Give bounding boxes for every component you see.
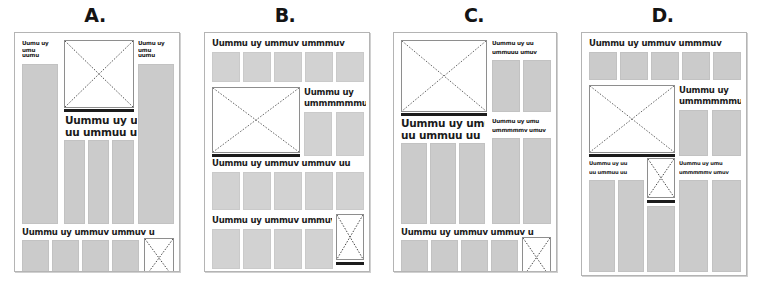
column-heading-right-line2: ummmmmv umuv [679,169,741,175]
sub-headline-line2: ummmmmmu [679,97,741,106]
text-block [679,180,708,272]
image-placeholder [589,85,675,153]
text-block [401,143,427,224]
panel-label-a: A. [0,2,190,28]
text-block [112,140,134,224]
text-block [305,229,333,269]
text-block [212,172,240,210]
text-block [243,229,271,269]
text-block [589,180,615,272]
headline-middle: Uummu uy ummuv ummuv uu [212,159,364,168]
text-block [274,172,302,210]
headline: Uummu uy umu [65,115,137,126]
image-placeholder [212,87,300,153]
text-block [712,110,741,156]
text-block [212,229,240,269]
column-heading-2-line2: ummmmmv umuv [492,127,552,134]
text-block [274,229,302,269]
image-placeholder [401,40,487,112]
text-block [492,60,520,112]
text-block [138,64,174,224]
sub-headline: Uummu uy [304,88,366,97]
text-block [523,60,551,112]
panel-label-c: C. [380,2,568,28]
text-block [336,172,364,210]
panel-label-d: D. [568,2,757,28]
column-heading-line2: ummuuu umuv [492,49,552,56]
layout-b: B. Uummu uy ummuv ummmuv Uummu [190,0,380,286]
caption-rule [212,154,300,157]
column-heading-right: Uummu uy umu [679,160,741,166]
column-heading: Uummu uy uu [492,40,552,47]
text-block [64,140,85,224]
headline-bottom: Uummu uy ummuv ummuv u [212,216,332,225]
text-block [304,112,332,156]
text-block [52,240,79,272]
text-block [459,143,485,224]
text-block [430,143,456,224]
page-b: Uummu uy ummuv ummmuv Uummu uy ummmmmmu [204,32,370,272]
text-block [88,140,109,224]
text-block [82,240,109,272]
headline-line2: uu ummuu uu [401,130,485,141]
layout-a: A. Uumu uy umu uumu Uumu uy umu uumu [0,0,190,286]
image-placeholder-small [522,237,551,272]
headline-top: Uummu uy ummuv ummmuv [212,39,364,48]
column-heading-left-line2: uu ummuu uu [589,169,647,175]
text-block [647,206,675,272]
text-block [22,240,49,272]
caption-rule [401,113,487,116]
caption-rule [647,200,675,203]
layout-d: D. Uummu uy ummuv ummmuv Uummu [568,0,757,286]
text-block [492,138,520,224]
text-block [491,240,518,272]
text-block [243,52,271,82]
image-placeholder-small [336,214,364,260]
text-block [401,240,428,272]
text-block [712,180,741,272]
image-placeholder-small [647,158,675,198]
image-placeholder-small [144,238,174,272]
headline-top: Uummu uy ummuv ummmuv [589,39,741,48]
text-block [682,52,710,80]
image-placeholder [64,40,134,108]
text-block [713,52,741,80]
text-block [589,52,617,80]
caption-rule [589,154,675,157]
page-c: Uummu uy uu ummuuu umuv Uummu uy umu umm… [393,32,557,272]
text-block [679,110,708,156]
image-cross-icon [337,215,363,259]
text-block [461,240,488,272]
text-block [651,52,679,80]
column-heading-left-2: uumu [22,52,58,59]
image-cross-icon [590,86,674,152]
column-heading-2: Uummu uy umu [492,118,552,125]
text-block [212,52,240,82]
figure-canvas: A. Uumu uy umu uumu Uumu uy umu uumu [0,0,757,286]
text-block [305,52,333,82]
text-block [523,138,551,224]
text-block [22,64,58,224]
headline: Uummu uy umu [401,118,485,129]
page-a: Uumu uy umu uumu Uumu uy umu uumu Uummu … [14,32,180,272]
image-cross-icon [145,239,173,272]
image-cross-icon [523,238,550,272]
column-heading-left: Uummu uy uu [589,160,647,166]
headline-line2: uu ummuu uu [65,127,137,138]
sub-headline-line2: ummmmmmu [304,99,366,108]
text-block [336,112,364,156]
text-block [620,52,648,80]
sub-headline: Uummu uy [679,86,741,95]
image-cross-icon [65,41,133,107]
text-block [618,180,644,272]
text-block [431,240,458,272]
image-cross-icon [213,88,299,152]
headline-bottom: Uummu uy ummuv ummuv u [401,228,549,237]
headline-bottom: Uummu uy ummuv ummuv u [22,228,172,237]
column-heading-right-2: uumu [138,52,174,59]
text-block [305,172,333,210]
caption-rule [336,262,364,265]
layout-c: C. Uummu uy uu ummuuu umuv Uummu uy umu [380,0,568,286]
image-cross-icon [402,41,486,111]
caption-rule [64,109,134,112]
